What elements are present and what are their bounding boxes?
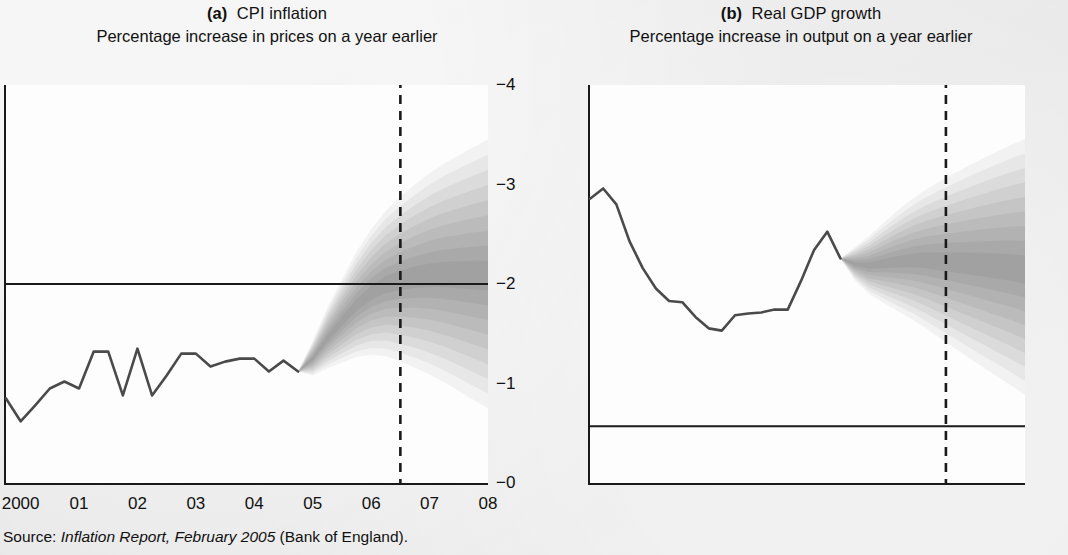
- fan-chart-figure: (a) CPI inflation Percentage increase in…: [0, 0, 1068, 555]
- panel-b-title-line: (b) Real GDP growth: [534, 2, 1068, 24]
- panel-b-titles: (b) Real GDP growth Percentage increase …: [534, 2, 1068, 48]
- panel-a-label: (a): [207, 4, 227, 22]
- y-tick-label: −2: [496, 274, 515, 294]
- panel-b-subtitle: Percentage increase in output on a year …: [534, 24, 1068, 48]
- y-tick-label: −4: [496, 75, 515, 95]
- x-tick-label: 03: [186, 494, 205, 514]
- x-tick-label: 01: [70, 494, 89, 514]
- x-tick-label: 08: [479, 494, 498, 514]
- panel-b-title: Real GDP growth: [752, 4, 882, 22]
- panel-b-label: (b): [721, 4, 742, 22]
- plot-area-gdp: [588, 85, 1025, 485]
- source-note: Source: Inflation Report, February 2005 …: [3, 528, 703, 546]
- panel-a-title-line: (a) CPI inflation: [0, 2, 534, 24]
- cpi-fan-chart-svg: [4, 85, 488, 485]
- x-tick-label: 06: [362, 494, 381, 514]
- gdp-fan-chart-svg: [588, 85, 1025, 485]
- y-tick-label: −1: [496, 374, 515, 394]
- panel-a-subtitle: Percentage increase in prices on a year …: [0, 24, 534, 48]
- panel-a-titles: (a) CPI inflation Percentage increase in…: [0, 2, 534, 48]
- x-tick-label: 05: [303, 494, 322, 514]
- x-tick-label: 2000: [2, 494, 40, 514]
- panel-a-title: CPI inflation: [237, 4, 327, 22]
- panel-real-gdp-growth: (b) Real GDP growth Percentage increase …: [534, 0, 1068, 555]
- x-tick-label: 04: [245, 494, 264, 514]
- source-publication: Inflation Report, February 2005: [61, 528, 276, 545]
- panel-cpi-inflation: (a) CPI inflation Percentage increase in…: [0, 0, 534, 555]
- x-tick-label: 02: [128, 494, 147, 514]
- source-prefix: Source:: [3, 528, 61, 545]
- x-tick-label: 07: [420, 494, 439, 514]
- y-tick-label: −3: [496, 175, 515, 195]
- x-axis-labels-cpi: 20000102030405060708: [0, 494, 534, 518]
- y-tick-label: −0: [496, 473, 515, 493]
- plot-area-cpi: [4, 85, 488, 485]
- source-suffix: (Bank of England).: [275, 528, 408, 545]
